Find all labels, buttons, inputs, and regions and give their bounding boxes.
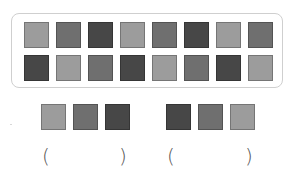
pattern-square-r2-c6 xyxy=(184,55,209,81)
group1-square-1 xyxy=(41,104,66,130)
pattern-square-r1-c7 xyxy=(216,22,241,48)
pattern-square-r1-c3 xyxy=(88,22,113,48)
pattern-square-r2-c1 xyxy=(24,55,49,81)
pattern-square-r1-c8 xyxy=(248,22,273,48)
group2-close-paren: ) xyxy=(245,146,253,166)
pattern-square-r2-c4 xyxy=(120,55,145,81)
pattern-square-r2-c7 xyxy=(216,55,241,81)
pattern-square-r1-c4 xyxy=(120,22,145,48)
pattern-square-r2-c8 xyxy=(248,55,273,81)
group1-square-3 xyxy=(105,104,130,130)
pattern-square-r1-c6 xyxy=(184,22,209,48)
pattern-square-r2-c5 xyxy=(152,55,177,81)
pattern-square-r2-c2 xyxy=(56,55,81,81)
group1-open-paren: ( xyxy=(42,146,50,166)
scan-speck xyxy=(10,124,12,125)
group1-close-paren: ) xyxy=(119,146,127,166)
group2-answer-blank[interactable] xyxy=(180,146,242,166)
pattern-square-r1-c1 xyxy=(24,22,49,48)
group2-square-1 xyxy=(166,104,191,130)
group2-square-3 xyxy=(230,104,255,130)
group2-square-2 xyxy=(198,104,223,130)
pattern-square-r1-c2 xyxy=(56,22,81,48)
group1-answer-blank[interactable] xyxy=(55,146,117,166)
pattern-square-r1-c5 xyxy=(152,22,177,48)
group2-open-paren: ( xyxy=(167,146,175,166)
pattern-frame xyxy=(11,13,283,88)
group1-square-2 xyxy=(73,104,98,130)
pattern-square-r2-c3 xyxy=(88,55,113,81)
